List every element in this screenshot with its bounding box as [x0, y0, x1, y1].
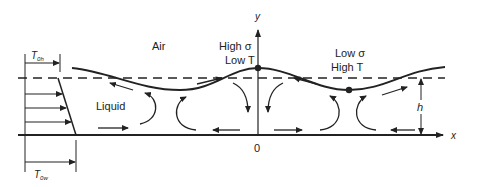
liquid-label: Liquid [96, 100, 125, 112]
peak-label-line2: Low T [225, 54, 255, 66]
trough-label-line1: Low σ [335, 47, 365, 59]
marangoni-diagram: Air Liquid High σ Low T Low σ High T y x… [0, 0, 477, 187]
trough-label-line2: High T [331, 61, 363, 73]
origin-label: 0 [254, 142, 260, 154]
thickness-label: h [417, 101, 423, 113]
peak-label-line1: High σ [219, 40, 252, 52]
air-label: Air [152, 40, 166, 52]
x-axis-label: x [450, 130, 457, 141]
temperature-profile [25, 54, 76, 172]
y-axis-label: y [254, 11, 261, 22]
trough-point [346, 87, 352, 93]
temp-bottom-label: T0w [34, 169, 48, 181]
peak-point [255, 65, 261, 71]
temp-top-label: T0h [31, 50, 44, 62]
